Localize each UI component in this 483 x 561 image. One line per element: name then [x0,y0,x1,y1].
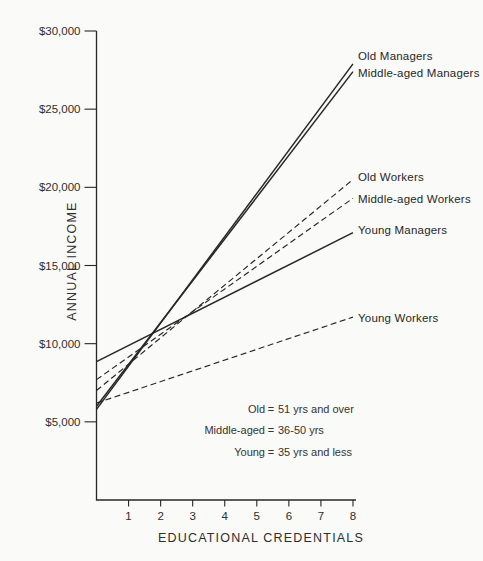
x-tick-label: 2 [157,510,163,522]
series-labels: Old ManagersMiddle-aged ManagersOld Work… [358,50,480,324]
legend-equals-sign: = [265,446,277,458]
x-tick-label: 5 [254,510,260,522]
x-tick-label: 6 [286,510,292,522]
x-tick-label: 1 [125,510,131,522]
x-tick-label: 4 [222,510,229,522]
legend-equals-sign: = [265,403,277,415]
y-tick-label: $25,000 [39,103,81,115]
x-tick-label: 8 [350,510,356,522]
legend-age-label: Young [147,446,265,458]
y-tick-label: $5,000 [45,416,80,428]
x-axis-title: EDUCATIONAL CREDENTIALS [158,531,364,545]
series-label-old-managers: Old Managers [358,50,433,62]
legend-age-range: 36-50 yrs [277,424,354,436]
series-label-young-workers: Young Workers [358,312,439,324]
y-axis-title: ANNUAL INCOME [65,201,79,320]
series-label-middle-aged-workers: Middle-aged Workers [358,193,471,205]
legend-age-label: Old [147,403,265,415]
legend-equals-sign: = [265,424,277,436]
series-line-middle-aged-workers [97,198,353,379]
series-line-old-workers [97,180,353,391]
series-label-middle-aged-managers: Middle-aged Managers [358,67,480,79]
legend-age-range: 51 yrs and over [277,403,354,415]
series-lines [97,64,353,409]
series-line-young-managers [97,233,353,362]
series-line-young-workers [97,317,353,403]
income-credentials-figure: $30,000$25,000$20,000$15,000$10,000$5,00… [0,0,483,561]
y-tick-label: $30,000 [39,25,81,37]
series-line-old-managers [97,64,353,409]
series-label-young-managers: Young Managers [358,224,447,236]
x-tick-label: 7 [318,510,324,522]
series-line-middle-aged-managers [97,72,353,407]
x-axis-ticks: 12345678 [125,500,356,522]
x-tick-label: 3 [189,510,195,522]
age-legend: Old=51 yrs and overMiddle-aged=36-50 yrs… [147,398,354,463]
legend-age-range: 35 yrs and less [277,446,354,458]
y-tick-label: $10,000 [39,338,81,350]
legend-age-label: Middle-aged [147,424,265,436]
series-label-old-workers: Old Workers [358,171,424,183]
y-tick-label: $20,000 [39,181,81,193]
